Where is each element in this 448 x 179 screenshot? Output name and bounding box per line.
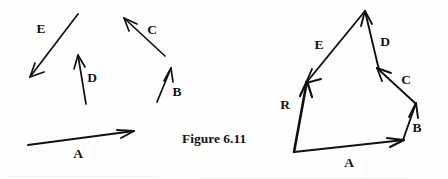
vector-A-left-shaft (28, 131, 134, 145)
vector-B-right: B (403, 103, 422, 140)
vector-C-left-label: C (147, 22, 157, 37)
vector-A-right-shaft (294, 140, 404, 152)
vector-D-right: D (361, 11, 390, 70)
vector-D-right-label: D (380, 34, 390, 49)
figure-6-11-container: A B C D E Fig (0, 0, 448, 179)
vector-C-right: C (377, 68, 415, 103)
vector-C-left-shaft (124, 18, 165, 56)
left-panel-group: A B C D E (28, 14, 182, 161)
vector-D-left-label: D (87, 70, 97, 85)
vector-E-left: E (30, 14, 78, 77)
vector-E-right: E (306, 11, 365, 83)
vector-A-left-label: A (73, 146, 83, 161)
vector-A-left-arrowhead (117, 130, 134, 138)
figure-caption: Figure 6.11 (182, 131, 247, 146)
vector-R-label: R (280, 97, 290, 112)
vector-A-left: A (28, 130, 134, 161)
vector-A-right: A (294, 138, 404, 170)
vector-D-right-shaft (365, 11, 379, 70)
vector-R-resultant: R (280, 81, 312, 152)
vector-D-left: D (74, 55, 97, 104)
vector-E-left-label: E (36, 21, 45, 36)
vector-B-right-label: B (412, 120, 421, 135)
vector-B-left-label: B (172, 84, 181, 99)
vector-C-left: C (124, 18, 165, 56)
vector-A-right-label: A (344, 155, 354, 170)
vector-figure-canvas: A B C D E Fig (0, 0, 448, 179)
vector-R-shaft (294, 81, 307, 152)
right-panel-group: A B C D E (280, 11, 421, 170)
vector-C-right-label: C (401, 72, 411, 87)
vector-E-right-label: E (314, 37, 323, 52)
vector-B-left: B (157, 68, 182, 102)
